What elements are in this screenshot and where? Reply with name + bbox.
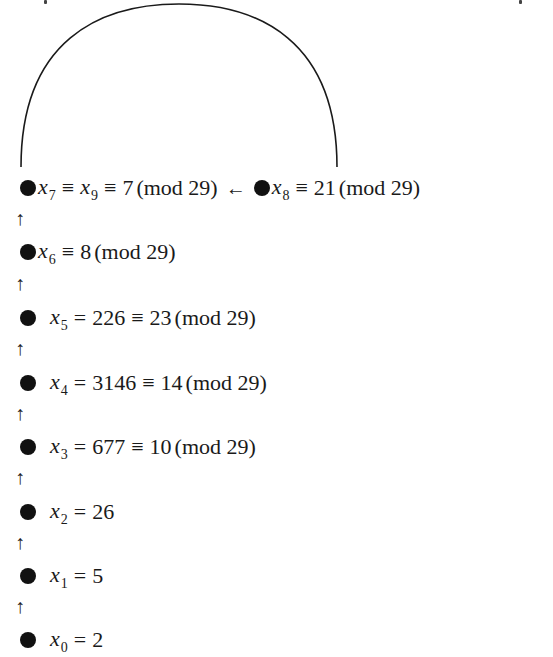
node-dot-x0	[20, 632, 36, 648]
var-x1: x1	[50, 560, 68, 593]
var-x8: x8	[272, 172, 290, 205]
up-arrow-icon: ↑	[15, 403, 25, 423]
residue-value: 10	[150, 432, 172, 462]
raw-value: 3146	[92, 368, 136, 398]
modulus-label: (mod 29)	[136, 173, 217, 203]
node-dot-x2	[20, 504, 36, 520]
equiv-symbol: ≡	[295, 173, 307, 203]
residue-value: 14	[161, 368, 183, 398]
var-x2: x2	[50, 496, 68, 529]
var-x4: x4	[50, 367, 68, 400]
modulus-label: (mod 29)	[175, 432, 256, 462]
up-arrow-icon: ↑	[15, 596, 25, 616]
modulus-label: (mod 29)	[94, 237, 175, 267]
modulus-label: (mod 29)	[175, 303, 256, 333]
cycle-arc	[0, 0, 553, 200]
up-arrow-icon: ↑	[15, 208, 25, 228]
equals-symbol: =	[74, 625, 86, 655]
var-x5: x5	[50, 302, 68, 335]
node-row-x3: x3 = 677 ≡ 10 (mod 29)	[20, 432, 256, 462]
node-dot-x5	[20, 310, 36, 326]
equals-symbol: =	[74, 303, 86, 333]
var-x9: x9	[80, 172, 98, 205]
equiv-symbol: ≡	[142, 368, 154, 398]
residue-value: 7	[122, 173, 133, 203]
node-dot-x3	[20, 439, 36, 455]
equiv-symbol: ≡	[131, 303, 143, 333]
node-row-x4: x4 = 3146 ≡ 14 (mod 29)	[20, 368, 267, 398]
equals-symbol: =	[74, 368, 86, 398]
modulus-label: (mod 29)	[339, 173, 420, 203]
node-dot-x6	[20, 244, 36, 260]
left-arrow-icon: ←	[226, 173, 246, 203]
up-arrow-icon: ↑	[15, 273, 25, 293]
residue-value: 23	[150, 303, 172, 333]
var-x3: x3	[50, 431, 68, 464]
node-row-x2: x2 = 26	[20, 497, 114, 527]
var-x7: x7	[38, 172, 56, 205]
var-x6: x6	[38, 236, 56, 269]
modulus-label: (mod 29)	[186, 368, 267, 398]
equiv-symbol: ≡	[131, 432, 143, 462]
up-arrow-icon: ↑	[15, 338, 25, 358]
node-row-x1: x1 = 5	[20, 561, 103, 591]
node-dot-x4	[20, 375, 36, 391]
up-arrow-icon: ↑	[15, 467, 25, 487]
node-value: 2	[92, 625, 103, 655]
equals-symbol: =	[74, 497, 86, 527]
up-arrow-icon: ↑	[15, 532, 25, 552]
node-row-x0: x0 = 2	[20, 625, 103, 655]
equiv-symbol: ≡	[104, 173, 116, 203]
equals-symbol: =	[74, 432, 86, 462]
residue-value: 8	[80, 237, 91, 267]
node-row-x6: x6 ≡ 8 (mod 29)	[20, 237, 175, 267]
equals-symbol: =	[74, 561, 86, 591]
node-dot-x1	[20, 568, 36, 584]
node-value: 26	[92, 497, 114, 527]
equiv-symbol: ≡	[62, 173, 74, 203]
node-value: 5	[92, 561, 103, 591]
equiv-symbol: ≡	[62, 237, 74, 267]
raw-value: 677	[92, 432, 125, 462]
residue-value: 21	[314, 173, 336, 203]
var-x0: x0	[50, 624, 68, 657]
node-row-x5: x5 = 226 ≡ 23 (mod 29)	[20, 303, 256, 333]
node-dot-x7	[20, 180, 36, 196]
node-row-x7: x7 ≡ x9 ≡ 7 (mod 29) ← x8 ≡ 21 (mod 29)	[20, 173, 420, 203]
raw-value: 226	[92, 303, 125, 333]
node-dot-x8	[254, 180, 270, 196]
